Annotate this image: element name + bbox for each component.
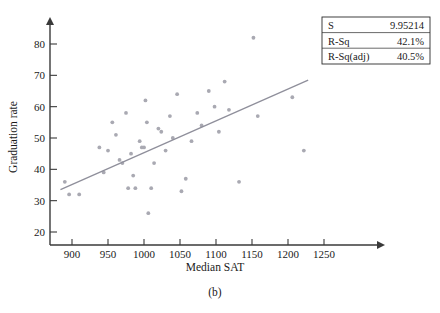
data-point <box>175 92 179 96</box>
scatter-plot-figure: 20304050607080 9009501000105011001150120… <box>0 0 440 313</box>
regression-line <box>60 80 308 190</box>
data-point <box>290 95 294 99</box>
x-axis-title: Median SAT <box>186 261 244 273</box>
y-tick-label: 80 <box>34 38 46 50</box>
data-point <box>133 186 137 190</box>
data-point <box>77 193 81 197</box>
x-tick-label: 1050 <box>169 248 192 260</box>
statistics-box: S9.95214R-Sq42.1%R-Sq(adj)40.5% <box>322 17 430 64</box>
data-point <box>146 211 150 215</box>
data-point <box>195 111 199 115</box>
data-point <box>152 161 156 165</box>
x-axis-tick-labels: 900950100010501100115012001250 <box>64 248 336 260</box>
stat-value: 42.1% <box>397 36 424 47</box>
data-point <box>302 149 306 153</box>
y-tick-label: 30 <box>34 195 46 207</box>
y-tick-label: 70 <box>34 69 46 81</box>
data-point <box>164 149 168 153</box>
data-point <box>129 152 133 156</box>
stat-value: 40.5% <box>397 51 424 62</box>
figure-caption: (b) <box>208 286 222 299</box>
x-tick-label: 1200 <box>277 248 300 260</box>
y-tick-label: 20 <box>34 226 46 238</box>
x-tick-label: 1250 <box>313 248 336 260</box>
data-point <box>213 105 217 109</box>
data-point <box>168 114 172 118</box>
data-point <box>126 186 130 190</box>
y-axis: 20304050607080 <box>34 24 57 245</box>
data-point <box>184 177 188 181</box>
stat-label: R-Sq <box>328 36 350 47</box>
data-point <box>63 180 67 184</box>
data-point <box>114 133 118 137</box>
data-point <box>252 36 256 40</box>
data-point <box>110 120 114 124</box>
plot-canvas: 20304050607080 9009501000105011001150120… <box>0 0 440 313</box>
data-point <box>217 130 221 134</box>
data-point <box>237 180 241 184</box>
y-tick-label: 50 <box>34 132 46 144</box>
data-point <box>118 158 122 162</box>
y-axis-title: Graduation rate <box>7 101 19 173</box>
data-point <box>227 108 231 112</box>
data-point <box>97 146 101 150</box>
x-tick-label: 950 <box>100 248 117 260</box>
data-point <box>67 193 71 197</box>
data-point <box>180 189 184 193</box>
x-tick-label: 900 <box>64 248 81 260</box>
data-point <box>256 114 260 118</box>
data-point <box>157 127 161 131</box>
y-axis-ticks <box>50 44 57 232</box>
x-tick-label: 1000 <box>133 248 156 260</box>
data-point <box>106 149 110 153</box>
y-axis-tick-labels: 20304050607080 <box>34 38 46 238</box>
data-point <box>190 139 194 143</box>
data-point <box>144 99 148 103</box>
stat-label: R-Sq(adj) <box>328 51 370 63</box>
y-tick-label: 60 <box>34 101 46 113</box>
data-point <box>149 186 153 190</box>
data-point <box>131 174 135 178</box>
data-point <box>159 130 163 134</box>
x-tick-label: 1100 <box>205 248 227 260</box>
x-axis: 900950100010501100115012001250 <box>50 239 378 260</box>
x-axis-ticks <box>72 239 324 245</box>
data-point <box>142 146 146 150</box>
stat-value: 9.95214 <box>390 20 425 31</box>
data-point <box>138 139 142 143</box>
data-points <box>63 36 306 215</box>
y-tick-label: 40 <box>34 163 46 175</box>
data-point <box>223 80 227 84</box>
stat-label: S <box>328 20 334 31</box>
x-tick-label: 1150 <box>241 248 263 260</box>
data-point <box>207 89 211 93</box>
data-point <box>145 120 149 124</box>
data-point <box>124 111 128 115</box>
